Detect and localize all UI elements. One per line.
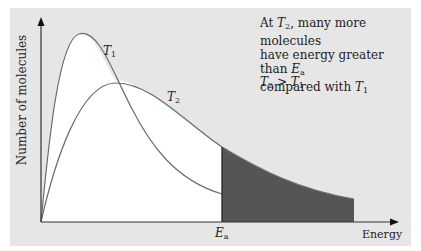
temperature-inequality: T2 > T1 (260, 75, 304, 90)
note-at: At (260, 16, 277, 30)
t2-curve-label: T2 (167, 90, 180, 105)
y-axis-label: Number of molecules (15, 35, 29, 166)
area-under-curves (41, 34, 222, 222)
note-line2-text: have energy greater than (260, 48, 384, 76)
t2-main: T (167, 90, 175, 104)
note-line-1: At T2, many more molecules (260, 16, 410, 48)
ea-sub: a (224, 232, 229, 241)
y-axis-arrow-icon (38, 17, 45, 26)
ea-label: Ea (215, 226, 229, 241)
note-t1-main: T (355, 80, 363, 94)
x-axis-label: Energy (362, 228, 402, 241)
t1-curve-label: T1 (103, 44, 116, 59)
ea-main: E (215, 226, 224, 240)
t1-sub: 1 (111, 50, 116, 59)
ineq-b-main: T (291, 75, 299, 89)
note-t2-main: T (277, 16, 285, 30)
note-t1-sub: 1 (363, 86, 368, 95)
t1-main: T (103, 44, 111, 58)
note-ea-main: E (291, 62, 300, 76)
t2-sub: 2 (175, 96, 180, 105)
ineq-a-main: T (260, 75, 268, 89)
ineq-op: > (273, 75, 291, 89)
ineq-b-sub: 1 (299, 81, 304, 90)
x-axis-arrow-icon (390, 219, 399, 226)
